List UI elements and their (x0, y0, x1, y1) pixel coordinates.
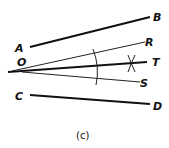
caption: (c) (76, 130, 89, 141)
label-d: D (153, 100, 162, 113)
label-r: R (145, 36, 153, 49)
label-c: C (15, 90, 23, 103)
label-s: S (140, 77, 148, 90)
line-cd (30, 95, 150, 104)
line-ab (30, 17, 150, 47)
label-a: A (14, 42, 24, 55)
label-t: T (152, 56, 161, 69)
label-b: B (153, 11, 161, 24)
geometry-diagram: A B O R T S C D (c) (0, 0, 169, 148)
label-o: O (17, 56, 26, 69)
construction-arc (93, 49, 97, 85)
line-os (22, 72, 140, 82)
